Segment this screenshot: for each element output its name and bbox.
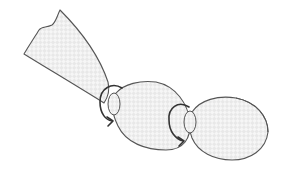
open-casing-end xyxy=(24,10,109,103)
link-2 xyxy=(189,97,268,160)
diagram-canvas xyxy=(0,0,288,171)
twist-diagram xyxy=(0,0,288,171)
